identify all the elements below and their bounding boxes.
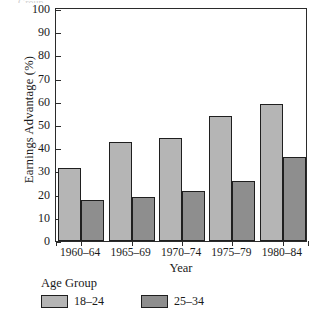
- x-axis-title: Year: [55, 261, 307, 276]
- y-tick-label: 80: [24, 49, 50, 61]
- y-tick-mark: [56, 56, 61, 57]
- x-tick-label: 1970–74: [161, 246, 201, 258]
- plot-area: [55, 8, 307, 242]
- y-tick-label: 60: [24, 96, 50, 108]
- y-tick-label: 30: [24, 165, 50, 177]
- bar: [132, 197, 155, 241]
- y-tick-label: 50: [24, 119, 50, 131]
- bar: [81, 200, 104, 241]
- legend-swatch: [141, 295, 168, 308]
- bar-chart: Group Earnings Advantage (%) 01020304050…: [0, 0, 313, 310]
- bar: [109, 142, 132, 241]
- bar: [260, 104, 283, 241]
- bar: [58, 168, 81, 241]
- legend-label: 25–34: [174, 294, 204, 309]
- legend: 18–2425–34: [41, 294, 313, 310]
- y-tick-mark: [56, 103, 61, 104]
- y-tick-label: 90: [24, 26, 50, 38]
- y-tick-mark: [56, 149, 61, 150]
- legend-title: Age Group: [41, 276, 97, 291]
- x-tick-label: 1960–64: [60, 246, 100, 258]
- bar: [182, 191, 205, 241]
- y-tick-label: 0: [24, 235, 50, 247]
- y-tick-label: 40: [24, 142, 50, 154]
- bar: [209, 116, 232, 241]
- y-tick-mark: [56, 10, 61, 11]
- bar: [232, 181, 255, 241]
- y-tick-mark: [56, 126, 61, 127]
- legend-item: 25–34: [141, 294, 204, 309]
- y-tick-label: 100: [24, 3, 50, 15]
- x-tick-mark: [56, 241, 57, 246]
- x-tick-label: 1975–79: [211, 246, 251, 258]
- y-axis-tick-labels: 0102030405060708090100: [22, 0, 50, 310]
- x-tick-label: 1965–69: [110, 246, 150, 258]
- y-tick-label: 10: [24, 212, 50, 224]
- bar: [283, 157, 306, 241]
- legend-label: 18–24: [74, 294, 104, 309]
- legend-item: 18–24: [41, 294, 104, 309]
- bar: [159, 138, 182, 241]
- x-tick-mark: [308, 241, 309, 246]
- legend-swatch: [41, 295, 68, 308]
- y-tick-label: 70: [24, 73, 50, 85]
- x-tick-label: 1980–84: [262, 246, 302, 258]
- y-tick-mark: [56, 80, 61, 81]
- y-tick-label: 20: [24, 189, 50, 201]
- y-tick-mark: [56, 33, 61, 34]
